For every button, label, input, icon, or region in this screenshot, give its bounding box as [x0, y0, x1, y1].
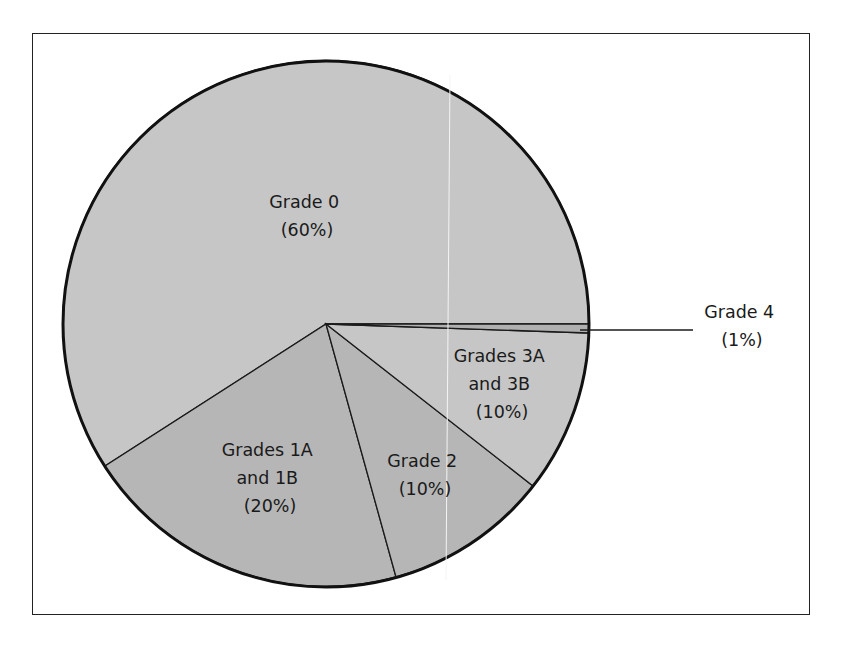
label-grade-2-name: Grade 2 — [387, 451, 457, 471]
label-grade-1-pct: (20%) — [244, 496, 297, 516]
label-grade-3-pct: (10%) — [476, 402, 529, 422]
label-grade-0-pct: (60%) — [281, 220, 334, 240]
label-grade-4: Grade 4 (1%) — [704, 302, 780, 350]
label-grade-2-pct: (10%) — [399, 479, 452, 499]
label-grade-0-name: Grade 0 — [269, 192, 339, 212]
label-grade-3-line1: Grades 3A — [454, 346, 545, 366]
label-grade-1-line2: and 1B — [236, 468, 298, 488]
label-grade-3-line2: and 3B — [468, 374, 530, 394]
pie-chart: Grade 0 (60%) Grades 1A and 1B (20%) Gra… — [0, 0, 841, 646]
label-grade-1-line1: Grades 1A — [222, 440, 313, 460]
label-grade-4-name: Grade 4 — [704, 302, 774, 322]
label-grade-4-pct: (1%) — [721, 330, 762, 350]
